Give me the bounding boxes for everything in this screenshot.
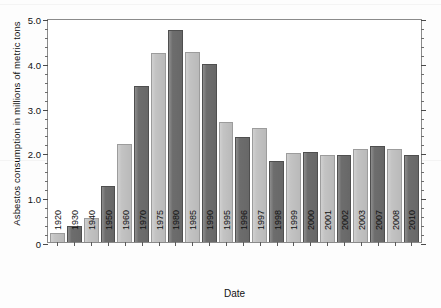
bar-slot: 1995 <box>218 20 235 242</box>
bar-slot: 2003 <box>352 20 369 242</box>
y-tick-minor-right <box>421 119 424 120</box>
x-tick-label-1990: 1990 <box>205 210 215 248</box>
y-tick-minor-right <box>421 47 424 48</box>
y-tick-minor <box>45 74 48 75</box>
y-tick-major-right <box>421 20 426 21</box>
y-tick-minor <box>45 181 48 182</box>
x-tick-label-1997: 1997 <box>256 210 266 248</box>
bar-slot: 1970 <box>133 20 150 242</box>
y-tick-minor-right <box>421 92 424 93</box>
x-tick-label-2008: 2008 <box>391 210 401 248</box>
y-tick-major <box>43 110 48 111</box>
bar-slot: 1975 <box>150 20 167 242</box>
x-tick-label-1980: 1980 <box>171 210 181 248</box>
y-tick-minor <box>45 172 48 173</box>
y-tick-minor <box>45 101 48 102</box>
x-tick-label-1999: 1999 <box>289 210 299 248</box>
y-tick-major-right <box>421 154 426 155</box>
x-tick-label-2003: 2003 <box>357 210 367 248</box>
y-tick-minor <box>45 217 48 218</box>
y-tick-minor-right <box>421 163 424 164</box>
y-axis-title: Asbestos consumption in millions of metr… <box>11 4 22 244</box>
bar-slot: 1999 <box>285 20 302 242</box>
x-tick-label-1985: 1985 <box>188 210 198 248</box>
bar-slot: 1990 <box>201 20 218 242</box>
bar-slot: 1960 <box>116 20 133 242</box>
y-tick-minor <box>45 119 48 120</box>
y-tick-major <box>43 244 48 245</box>
y-tick-minor <box>45 226 48 227</box>
x-tick-label-1950: 1950 <box>104 210 114 248</box>
x-tick-label-1996: 1996 <box>239 210 249 248</box>
x-tick-label-1920: 1920 <box>53 210 63 248</box>
y-tick-minor-right <box>421 74 424 75</box>
chart-figure: Asbestos consumption in millions of metr… <box>0 0 441 308</box>
y-tick-major <box>43 20 48 21</box>
x-tick-label-1995: 1995 <box>222 210 232 248</box>
bar-slot: 2000 <box>302 20 319 242</box>
y-tick-minor <box>45 145 48 146</box>
bar-slot: 1940 <box>83 20 100 242</box>
x-tick-label-1940: 1940 <box>87 210 97 248</box>
x-tick-label-1975: 1975 <box>155 210 165 248</box>
y-tick-minor-right <box>421 128 424 129</box>
y-tick-minor <box>45 235 48 236</box>
y-tick-label-5.0: 5.0 <box>28 15 41 26</box>
y-tick-minor <box>45 190 48 191</box>
x-tick-label-1998: 1998 <box>273 210 283 248</box>
x-tick-label-2002: 2002 <box>340 210 350 248</box>
y-tick-label-3.0: 3.0 <box>28 104 41 115</box>
y-tick-minor-right <box>421 235 424 236</box>
plot-area: 1920193019401950196019701975198019851990… <box>47 19 422 243</box>
y-tick-minor-right <box>421 145 424 146</box>
y-tick-minor-right <box>421 83 424 84</box>
bar-slot: 1980 <box>167 20 184 242</box>
y-tick-minor <box>45 136 48 137</box>
bar-slot: 1998 <box>268 20 285 242</box>
x-tick-label-1960: 1960 <box>121 210 131 248</box>
x-tick-label-2000: 2000 <box>306 210 316 248</box>
y-tick-minor-right <box>421 172 424 173</box>
y-tick-minor-right <box>421 190 424 191</box>
x-tick-label-2001: 2001 <box>323 210 333 248</box>
y-tick-major-right <box>421 110 426 111</box>
y-tick-minor-right <box>421 226 424 227</box>
bar-slot: 2002 <box>336 20 353 242</box>
y-tick-minor-right <box>421 208 424 209</box>
bar-slot: 2008 <box>386 20 403 242</box>
bar-slot: 1996 <box>234 20 251 242</box>
y-tick-major <box>43 199 48 200</box>
y-tick-major <box>43 154 48 155</box>
x-axis-title: Date <box>47 288 422 299</box>
y-tick-minor-right <box>421 29 424 30</box>
x-tick-label-2010: 2010 <box>407 210 417 248</box>
y-tick-major-right <box>421 65 426 66</box>
y-tick-label-1.0: 1.0 <box>28 194 41 205</box>
y-tick-label-4.0: 4.0 <box>28 59 41 70</box>
y-tick-minor-right <box>421 101 424 102</box>
y-tick-minor-right <box>421 217 424 218</box>
bar-slot: 1997 <box>251 20 268 242</box>
y-tick-major-right <box>421 199 426 200</box>
bar-slot: 2010 <box>403 20 420 242</box>
y-tick-minor <box>45 128 48 129</box>
x-tick-label-1930: 1930 <box>70 210 80 248</box>
y-tick-minor-right <box>421 56 424 57</box>
y-tick-label-0: 0 <box>36 239 41 250</box>
x-tick-label-1970: 1970 <box>138 210 148 248</box>
y-tick-major <box>43 65 48 66</box>
bar-slot: 1985 <box>184 20 201 242</box>
y-tick-minor <box>45 47 48 48</box>
bar-slot: 1920 <box>49 20 66 242</box>
y-tick-minor <box>45 163 48 164</box>
bar-slot: 1930 <box>66 20 83 242</box>
y-tick-minor <box>45 29 48 30</box>
bar-slot: 1950 <box>100 20 117 242</box>
y-tick-minor <box>45 92 48 93</box>
bar-series: 1920193019401950196019701975198019851990… <box>48 20 421 242</box>
bar-slot: 2001 <box>319 20 336 242</box>
x-tick-label-2007: 2007 <box>374 210 384 248</box>
bar-slot: 2007 <box>369 20 386 242</box>
y-tick-minor-right <box>421 38 424 39</box>
y-tick-minor <box>45 38 48 39</box>
